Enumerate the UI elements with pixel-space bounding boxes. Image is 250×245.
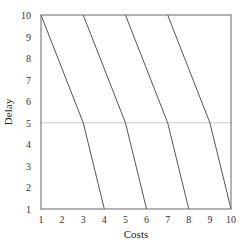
y-tick-label: 6	[26, 96, 31, 107]
series-layer	[41, 15, 231, 209]
x-tick-label: 6	[144, 214, 149, 225]
plot-frame	[41, 15, 231, 209]
x-tick-label: 7	[165, 214, 170, 225]
x-tick-label: 5	[123, 214, 128, 225]
y-tick-label: 10	[21, 10, 31, 21]
chart: 12345678910 12345678910 Costs Delay	[0, 0, 250, 245]
x-axis-label: Costs	[124, 228, 148, 240]
x-tick-label: 4	[102, 214, 107, 225]
series-line-4	[168, 15, 231, 209]
y-tick-label: 1	[26, 204, 31, 215]
y-axis-label: Delay	[2, 98, 14, 125]
y-tick-label: 5	[26, 118, 31, 129]
y-tick-label: 4	[26, 139, 31, 150]
y-tick-label: 2	[26, 182, 31, 193]
y-tick-label: 8	[26, 53, 31, 64]
x-tick-label: 1	[39, 214, 44, 225]
y-tick-label: 9	[26, 32, 31, 43]
x-tick-label: 10	[226, 214, 236, 225]
x-tick-label: 9	[207, 214, 212, 225]
x-tick-label: 2	[60, 214, 65, 225]
y-tick-label: 7	[26, 75, 31, 86]
x-tick-label: 8	[186, 214, 191, 225]
y-tick-label: 3	[26, 161, 31, 172]
x-tick-label: 3	[81, 214, 86, 225]
y-axis-ticks: 12345678910	[21, 10, 31, 215]
x-axis-ticks: 12345678910	[39, 214, 237, 225]
